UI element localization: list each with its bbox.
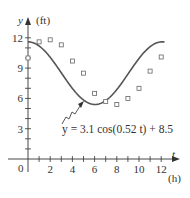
chart: 2468101236912 y (ft) t (h) 0 y = 3.1 cos…	[0, 0, 190, 198]
data-point-marker	[82, 71, 86, 75]
data-point-marker	[159, 55, 163, 59]
svg-text:8: 8	[114, 163, 120, 175]
y-unit-label: (ft)	[36, 14, 50, 27]
equation-leader-arrow	[62, 101, 84, 124]
svg-text:6: 6	[92, 163, 98, 175]
x-unit-label: (h)	[168, 172, 181, 185]
axes: 2468101236912	[8, 17, 180, 175]
data-point-marker	[104, 99, 108, 103]
equation-label: y = 3.1 cos(0.52 t) + 8.5	[62, 123, 173, 136]
data-point-marker	[70, 59, 74, 63]
y-axis-label: y	[17, 14, 23, 26]
svg-text:2: 2	[47, 163, 53, 175]
svg-text:12: 12	[156, 163, 167, 175]
data-point-marker	[26, 56, 30, 60]
data-point-marker	[48, 38, 52, 42]
data-point-marker	[93, 91, 97, 95]
data-point-marker	[137, 86, 141, 90]
svg-text:4: 4	[70, 163, 76, 175]
svg-text:3: 3	[18, 123, 24, 135]
data-point-marker	[37, 40, 41, 44]
data-point-marker	[59, 43, 63, 47]
svg-text:6: 6	[18, 92, 24, 104]
data-point-marker	[126, 96, 130, 100]
svg-text:10: 10	[134, 163, 146, 175]
svg-text:9: 9	[18, 62, 24, 74]
svg-text:12: 12	[12, 32, 23, 44]
origin-label: 0	[18, 162, 24, 174]
data-point-marker	[148, 69, 152, 73]
data-point-marker	[115, 102, 119, 106]
data-points	[26, 38, 163, 107]
